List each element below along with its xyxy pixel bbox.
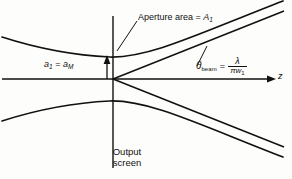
aperture-area-subscript: 1 <box>209 16 213 23</box>
waist-equals-sign: = <box>53 59 63 69</box>
divergence-numerator: λ <box>233 57 241 66</box>
theta-subscript: beam <box>201 66 216 72</box>
aperture-area-text: Aperture area = <box>138 12 203 22</box>
divergence-equals-sign: = <box>220 62 225 71</box>
denominator-subscript: 1 <box>241 70 244 76</box>
beam-propagation-figure: Aperture area = A1 a1 = aM θbeam = λ πw1… <box>0 0 292 179</box>
z-axis-label: z <box>278 72 283 81</box>
aperture-label-leader-line <box>117 21 137 51</box>
beam-waist-label: a1 = aM <box>44 60 73 71</box>
z-axis-arrowhead <box>267 76 276 83</box>
divergence-fraction: λ πw1 <box>228 57 246 76</box>
output-screen-line2: screen <box>88 157 166 168</box>
output-screen-line1: Output <box>88 146 166 157</box>
upper-beam-envelope-curve <box>2 1 283 57</box>
waist-right-subscript: M <box>68 63 73 70</box>
aperture-area-label: Aperture area = A1 <box>138 13 213 24</box>
beam-divergence-label: θbeam = λ πw1 <box>196 57 247 76</box>
output-screen-label: Output screen <box>88 146 166 168</box>
divergence-denominator: πw1 <box>228 67 246 76</box>
lower-asymptote-line <box>113 79 284 147</box>
divergence-theta-group: θbeam <box>196 61 217 72</box>
